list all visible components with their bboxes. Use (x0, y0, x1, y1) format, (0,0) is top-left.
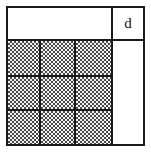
horizontal-divider (6, 39, 145, 41)
grid-cell (41, 41, 76, 77)
grid-cell (8, 41, 41, 77)
grid-cell (8, 111, 41, 144)
top-left-panel (8, 8, 111, 39)
grid-cell (76, 111, 111, 144)
diagram-figure: d (0, 0, 151, 153)
shaded-grid (8, 41, 111, 144)
label-cell-text: d (124, 16, 132, 31)
grid-cell (41, 77, 76, 111)
grid-cell (41, 111, 76, 144)
right-column-panel (113, 41, 143, 144)
grid-cell (76, 41, 111, 77)
grid-cell (76, 77, 111, 111)
label-cell: d (113, 8, 143, 39)
grid-cell (8, 77, 41, 111)
